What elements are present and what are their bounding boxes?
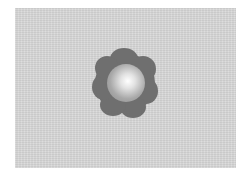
particle — [92, 48, 158, 118]
particle-core — [107, 64, 145, 102]
image-panel — [15, 8, 236, 168]
